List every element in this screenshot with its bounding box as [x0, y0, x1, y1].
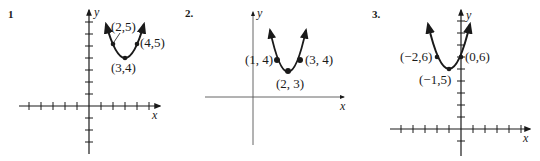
point-label: (1, 4): [245, 52, 273, 67]
point-label: (4,5): [140, 35, 165, 50]
point: [435, 55, 440, 60]
point: [459, 55, 464, 60]
x-axis-label: x: [339, 99, 346, 113]
point-label: (2,5): [111, 19, 136, 34]
point-label: (−1,5): [419, 72, 451, 87]
point-label: (3,4): [111, 60, 136, 75]
graph-number: 3.: [372, 8, 381, 20]
y-axis-label: y: [465, 8, 472, 22]
point-label: (−2,6): [400, 49, 432, 64]
point-label: (2, 3): [276, 76, 304, 91]
point-label: (0,6): [465, 49, 490, 64]
y-axis-label: y: [93, 5, 100, 19]
leader-line: [114, 33, 120, 42]
point: [135, 42, 140, 47]
graph-number: 2.: [185, 7, 194, 19]
vertex-point: [285, 68, 291, 74]
x-axis-label: x: [151, 108, 158, 122]
graph-number: 1: [8, 8, 14, 20]
vertex-point: [447, 67, 452, 72]
graph-1: 1 x y (2,5) (4,5) (3,4): [8, 5, 165, 154]
point: [111, 42, 116, 47]
x-axis-label: x: [522, 131, 529, 145]
parabola-curve: [428, 24, 470, 69]
parabola-curve: [270, 30, 306, 72]
y-axis-label: y: [256, 6, 263, 20]
graph-2: 2. x y (1, 4) (2, 3) (3, 4): [185, 6, 346, 145]
point: [274, 57, 280, 63]
graph-3: 3. x y (−2,6) (−1,5) (0,6): [372, 8, 530, 156]
point-label: (3, 4): [305, 52, 333, 67]
point: [297, 57, 303, 63]
parabola-figures: 1 x y (2,5) (4,5) (3,4): [0, 0, 540, 161]
